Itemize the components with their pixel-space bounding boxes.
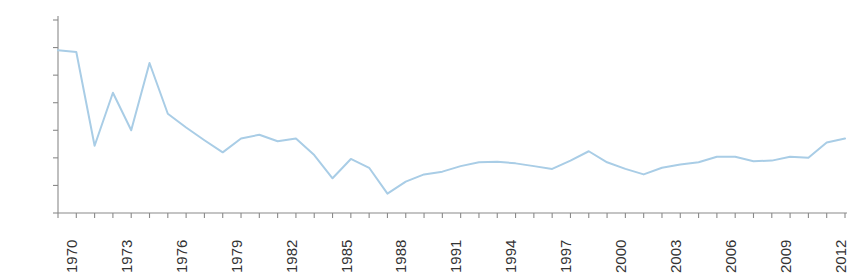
x-axis-tick-label: 1979: [229, 240, 244, 273]
x-axis-tick-label: 1991: [448, 240, 463, 273]
x-axis-tick-label: 1976: [174, 240, 189, 273]
x-axis-tick-label: 2003: [668, 240, 683, 273]
x-axis-tick-label: 2000: [613, 240, 628, 273]
x-axis-tick-label: 2006: [723, 240, 738, 273]
x-axis-tick-label: 1982: [284, 240, 299, 273]
x-axis-tick-label: 1970: [64, 240, 79, 273]
line-chart: 3,0%2,5%2,0%1,5%1,0%0,5%0,0%-0,5% 197019…: [0, 0, 851, 278]
x-axis-tick-label: 1988: [393, 240, 408, 273]
x-axis-tick-label: 2009: [778, 240, 793, 273]
x-axis-tick-label: 1994: [503, 240, 518, 273]
x-axis-tick-label: 2012: [833, 240, 848, 273]
x-axis-tick-label: 1973: [119, 240, 134, 273]
x-axis-tick-labels: 1970197319761979198219851988199119941997…: [0, 0, 851, 278]
x-axis-tick-label: 1985: [339, 240, 354, 273]
x-axis-tick-label: 1997: [558, 240, 573, 273]
